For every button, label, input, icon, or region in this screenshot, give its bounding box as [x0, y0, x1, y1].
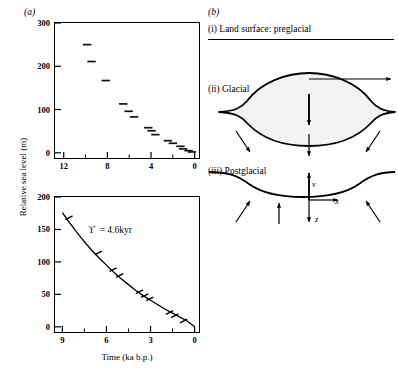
y-tick-label: 100 — [37, 257, 50, 267]
y-tick-label: 150 — [37, 224, 50, 234]
x-tick-label: 12 — [59, 161, 68, 171]
y-tick-label: 0 — [46, 148, 50, 158]
tau-value: 4.6 — [107, 225, 119, 235]
y-tick-label: 300 — [37, 18, 50, 28]
tau-unit: kyr — [119, 225, 132, 235]
x-tick-label: 4 — [149, 161, 153, 171]
x-tick-label: 8 — [105, 161, 109, 171]
y-tick-label: 100 — [37, 105, 50, 115]
x-tick-label: 0 — [193, 161, 197, 171]
x-tick-label: 9 — [60, 335, 64, 345]
tau-symbol: ϒ — [88, 225, 95, 235]
x-tick-label: 6 — [104, 335, 108, 345]
panel-b-diagram: (i) Land surface: preglacial (ii) Glacia… — [205, 0, 398, 377]
y-axis-title: Relative sea level (m) — [18, 102, 28, 252]
y-tick-label: 0 — [46, 322, 50, 332]
x-axis-title: Time (ka b.p.) — [54, 352, 200, 362]
upper-plot-canvas — [55, 23, 199, 158]
x-tick-label: 3 — [148, 335, 152, 345]
upper-scatter-plot: 010020030012840 — [54, 22, 200, 159]
lower-plot-canvas — [55, 197, 199, 332]
y-tick-label: 200 — [37, 61, 50, 71]
x-tick-label: 0 — [192, 335, 196, 345]
panel-b-canvas — [205, 0, 398, 377]
relaxation-time-annotation: ϒ = 4.6kyr — [88, 225, 132, 235]
y-tick-label: 50 — [42, 289, 51, 299]
tau-equals: = — [97, 225, 107, 235]
y-tick-label: 200 — [37, 192, 50, 202]
lower-decay-plot: 0501001502009630 — [54, 196, 200, 333]
panel-a-letter: (a) — [24, 7, 35, 17]
